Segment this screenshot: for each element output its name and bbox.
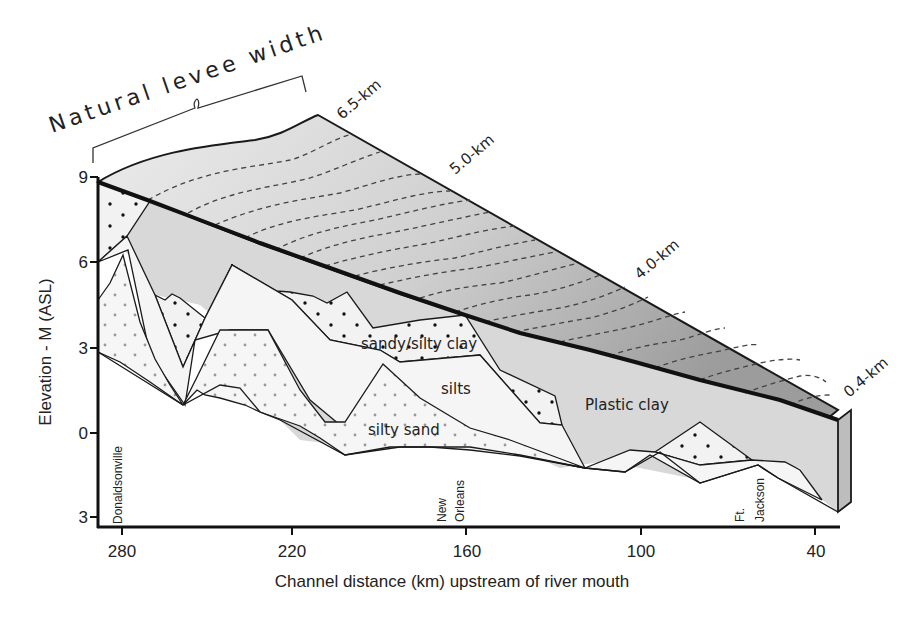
svg-text:3: 3 (79, 508, 88, 527)
location-ft: Ft. (733, 508, 747, 522)
label-plastic-clay: Plastic clay (585, 396, 669, 414)
block-end-face (838, 410, 851, 512)
svg-text:100: 100 (627, 542, 655, 561)
label-silts: silts (441, 380, 471, 398)
svg-text:160: 160 (453, 542, 481, 561)
x-axis-title: Channel distance (km) upstream of river … (275, 572, 629, 591)
label-sandy-silty-clay: sandy/silty clay (361, 335, 477, 353)
width-label-5-0km: 5.0-km (446, 130, 498, 178)
svg-text:40: 40 (807, 542, 826, 561)
svg-text:0: 0 (79, 424, 88, 443)
label-silty-sand: silty sand (368, 421, 440, 439)
svg-text:3: 3 (79, 339, 88, 358)
location-orleans: Orleans (453, 480, 467, 522)
x-tick-labels: 280 220 160 100 40 (108, 542, 826, 561)
svg-text:220: 220 (278, 542, 306, 561)
svg-text:9: 9 (79, 168, 88, 187)
location-donaldsonville: Donaldsonville (111, 446, 125, 524)
location-new: New (435, 498, 449, 522)
width-label-6-5km: 6.5-km (333, 75, 385, 123)
width-label-4-0km: 4.0-km (631, 235, 683, 283)
width-label-0-4km: 0.4-km (840, 353, 892, 401)
svg-text:6: 6 (79, 253, 88, 272)
levee-width-title: Natural levee width (45, 19, 329, 138)
y-axis-title: Elevation - M (ASL) (36, 278, 55, 425)
svg-text:280: 280 (108, 542, 136, 561)
location-jackson: Jackson (753, 478, 767, 522)
levee-cross-section-diagram: Natural levee width 6.5-km 5.0-km 4.0-km… (0, 0, 917, 617)
y-tick-labels: 9 6 3 0 3 (79, 168, 88, 527)
